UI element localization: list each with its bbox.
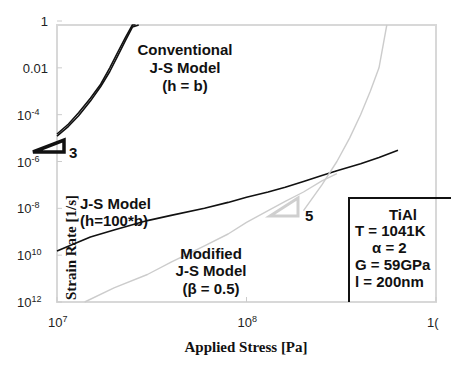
y-tick-label-3: 10-6	[17, 154, 39, 170]
annotation-modified-line3: (β = 0.5)	[182, 280, 239, 297]
y-tick-label-2: 10-4	[17, 107, 39, 123]
y-tick-label-4: 10-8	[17, 200, 39, 216]
legend-line-length: l = 200nm	[355, 273, 424, 290]
series-line-0	[57, 25, 136, 134]
legend-line-shear-modulus: G = 59GPa	[355, 256, 431, 273]
x-tick-label-0: 107	[48, 314, 67, 330]
annotation-conventional-line3: (h = b)	[162, 77, 207, 94]
y-tick-label-1: 0.01	[23, 61, 48, 76]
slope-3-label: 3	[69, 144, 77, 161]
y-tick-label-5: 1010	[17, 247, 41, 263]
y-tick-label-6: 1012	[17, 294, 41, 310]
series-line-4	[304, 25, 387, 211]
x-tick-label-1: 108	[238, 314, 257, 330]
y-tick-label-0: 1	[41, 14, 48, 29]
x-tick-label-2: 1(	[427, 315, 439, 330]
slope-5-label: 5	[305, 207, 313, 224]
annotation-conventional-line1: Conventional	[137, 41, 232, 58]
annotation-modified-line1: Modified	[180, 245, 242, 262]
legend-line-alpha: α = 2	[372, 239, 407, 256]
x-axis-label: Applied Stress [Pa]	[184, 339, 307, 355]
annotation-js100-line1: J-S Model	[80, 195, 151, 212]
annotation-conventional-line2: J-S Model	[150, 59, 221, 76]
annotation-js100-line2: (h=100*b)	[80, 212, 148, 229]
legend-line-material: TiAl	[389, 206, 417, 223]
legend-line-temperature: T = 1041K	[355, 222, 426, 239]
annotation-modified-line2: J-S Model	[176, 262, 247, 279]
slope-3-triangle	[33, 140, 64, 152]
chart: 10.0110-410-610-8101010121071081( 3 5 Co…	[0, 0, 451, 379]
y-axis-label: Strain Rate [1/s]	[63, 195, 79, 300]
series-line-1	[57, 25, 139, 136]
